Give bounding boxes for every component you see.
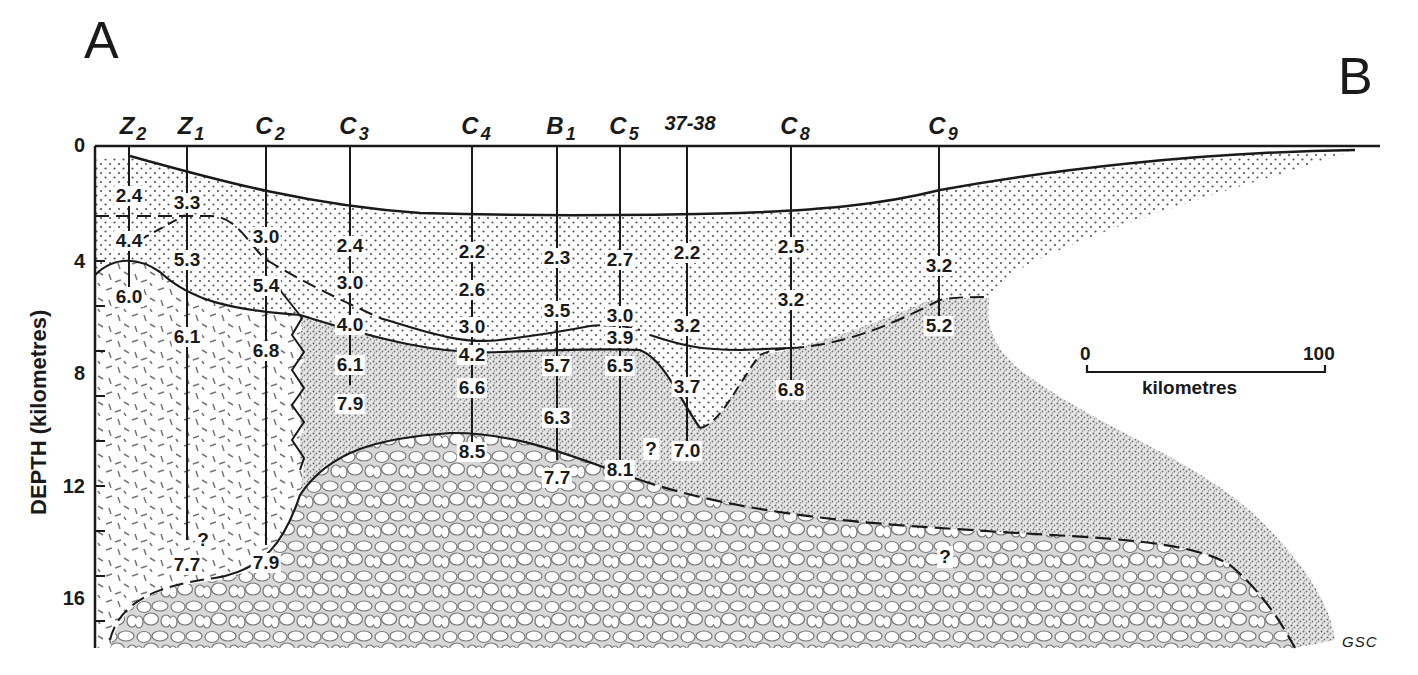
velocity-label: 4.2 (457, 345, 487, 365)
velocity-label: 6.8 (776, 380, 806, 400)
velocity-label: 2.7 (605, 250, 635, 270)
cross-section-drawing (0, 0, 1418, 675)
velocity-label: 8.1 (605, 460, 635, 480)
station-c4: C4 (461, 112, 490, 145)
station-c5: C5 (609, 112, 638, 145)
velocity-label: 4.4 (114, 231, 144, 251)
velocity-label: 6.8 (251, 341, 281, 361)
velocity-label: 2.2 (457, 242, 487, 262)
velocity-label: 6.5 (605, 356, 635, 376)
y-tick-16: 16 (45, 587, 85, 610)
y-tick-12: 12 (45, 475, 85, 498)
velocity-label: 2.3 (542, 248, 572, 268)
velocity-label: 5.4 (251, 276, 281, 296)
station-c8: C8 (780, 112, 809, 145)
y-tick-4: 4 (45, 250, 85, 273)
velocity-label: 3.9 (605, 328, 635, 348)
station-c3: C3 (339, 112, 368, 145)
velocity-label: 2.2 (672, 243, 702, 263)
station-c9: C9 (928, 112, 957, 145)
uncertainty-mark: ? (195, 529, 211, 551)
uncertainty-mark: ? (937, 546, 953, 568)
velocity-label: 4.0 (335, 315, 365, 335)
velocity-label: 7.0 (672, 441, 702, 461)
velocity-label: 3.0 (605, 306, 635, 326)
velocity-label: 2.6 (457, 280, 487, 300)
velocity-label: 6.1 (172, 327, 202, 347)
scale-bar-unit: kilometres (1142, 377, 1237, 399)
velocity-label: 5.7 (542, 356, 572, 376)
velocity-label: 3.0 (335, 273, 365, 293)
section-start-label: A (84, 14, 119, 66)
velocity-label: 2.4 (335, 236, 365, 256)
velocity-label: 2.5 (776, 237, 806, 257)
velocity-label: 3.5 (542, 301, 572, 321)
scale-bar-end: 100 (1303, 343, 1335, 365)
y-tick-8: 8 (45, 362, 85, 385)
station-c2: C2 (255, 112, 284, 145)
scale-bar (1087, 365, 1325, 372)
velocity-label: 3.3 (172, 193, 202, 213)
y-tick-0: 0 (45, 134, 85, 157)
velocity-label: 7.9 (251, 553, 281, 573)
velocity-label: 6.1 (335, 355, 365, 375)
velocity-label: 6.6 (457, 378, 487, 398)
scale-bar-start: 0 (1080, 343, 1091, 365)
velocity-label: 5.3 (172, 250, 202, 270)
velocity-label: 7.7 (542, 468, 572, 488)
velocity-label: 7.9 (335, 394, 365, 414)
velocity-label: 6.3 (542, 408, 572, 428)
velocity-label: 3.2 (924, 256, 954, 276)
velocity-label: 3.0 (251, 227, 281, 247)
station-37-38: 37-38 (664, 112, 715, 135)
station-z1: Z1 (178, 112, 205, 145)
credit-label: GSC (1342, 633, 1378, 650)
velocity-label: 7.7 (172, 555, 202, 575)
station-b1: B1 (546, 112, 575, 145)
velocity-label: 3.2 (672, 316, 702, 336)
velocity-label: 2.4 (114, 186, 144, 206)
section-end-label: B (1338, 50, 1373, 102)
station-z2: Z2 (120, 112, 147, 145)
velocity-label: 3.7 (672, 377, 702, 397)
velocity-label: 8.5 (457, 442, 487, 462)
velocity-label: 3.2 (776, 290, 806, 310)
velocity-label: 6.0 (114, 287, 144, 307)
uncertainty-mark: ? (643, 438, 659, 460)
velocity-label: 3.0 (457, 317, 487, 337)
velocity-label: 5.2 (924, 316, 954, 336)
